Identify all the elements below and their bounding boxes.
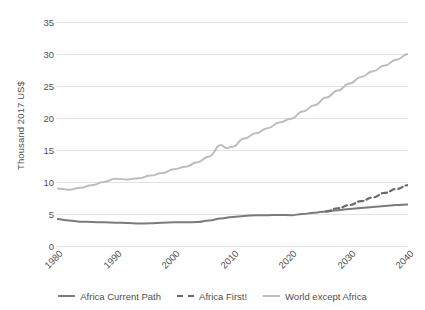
x-axis-tick-label: 2010 — [218, 248, 241, 271]
chart-legend: Africa Current PathAfrica First!World ex… — [0, 286, 425, 306]
line-chart: Thousand 2017 US$ 05101520253035 1980199… — [0, 0, 425, 310]
y-axis-tick-label: 5 — [49, 209, 54, 220]
legend-item[interactable]: Africa Current Path — [58, 291, 161, 302]
legend-label: World except Africa — [285, 291, 367, 302]
legend-swatch-dashed-icon — [177, 295, 194, 297]
x-axis-tick-label: 1980 — [42, 248, 65, 271]
y-axis-tick-labels: 05101520253035 — [26, 22, 54, 246]
legend-item[interactable]: Africa First! — [177, 291, 247, 302]
y-axis-tick-label: 30 — [43, 49, 54, 60]
y-axis-tick-label: 35 — [43, 17, 54, 28]
series-line — [57, 54, 408, 190]
x-axis-tick-labels: 1980199020002010202020302040 — [57, 248, 408, 288]
y-axis-tick-label: 20 — [43, 113, 54, 124]
series-layer — [57, 22, 408, 246]
x-axis-tick-label: 2040 — [393, 248, 416, 271]
y-axis-tick-label: 15 — [43, 145, 54, 156]
legend-swatch-solid-icon — [58, 295, 75, 297]
legend-item[interactable]: World except Africa — [263, 291, 367, 302]
legend-label: Africa First! — [199, 291, 247, 302]
x-axis-tick-label: 2020 — [276, 248, 299, 271]
legend-swatch-solid-icon — [263, 295, 280, 297]
x-axis-tick-label: 2030 — [335, 248, 358, 271]
x-axis-tick-label: 2000 — [159, 248, 182, 271]
y-axis-tick-label: 10 — [43, 177, 54, 188]
y-axis-title-label: Thousand 2017 US$ — [15, 81, 26, 170]
x-axis-tick-label: 1990 — [101, 248, 124, 271]
legend-label: Africa Current Path — [80, 291, 161, 302]
plot-area — [57, 22, 408, 246]
series-line — [57, 204, 408, 223]
y-axis-tick-label: 25 — [43, 81, 54, 92]
